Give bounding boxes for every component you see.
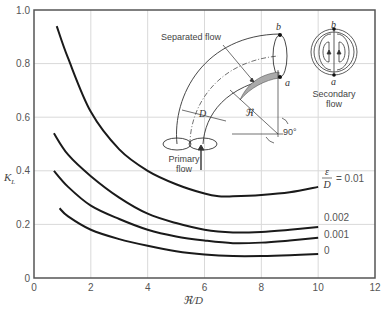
y-tick-label: 0.4 (16, 165, 30, 176)
series-label-0.01: = 0.01 (336, 173, 365, 184)
y-tick-label: 0.2 (16, 219, 30, 230)
secondary-flow-label-2: flow (326, 99, 343, 109)
y-tick-label: 0 (24, 273, 30, 284)
series-labels: ε D = 0.01 0.002 0.001 0 (322, 166, 365, 256)
x-tick-label: 8 (259, 282, 265, 293)
curve-0.001 (54, 171, 318, 243)
primary-flow-label-2: flow (176, 164, 193, 174)
x-tick-label: 0 (31, 282, 37, 293)
point-b-label: b (276, 21, 281, 32)
radius-symbol: ℜ (245, 107, 254, 118)
series-label-0.001: 0.001 (324, 229, 349, 240)
legend-D: D (322, 179, 331, 190)
y-tick-labels: 00.20.40.60.81.0 (16, 5, 30, 284)
x-axis-label: ℜ/D (183, 294, 203, 306)
pipe-bend-illustration (163, 33, 288, 170)
x-tick-labels: 024681012 (31, 282, 381, 293)
x-tick-label: 2 (88, 282, 94, 293)
legend-epsilon: ε (325, 166, 329, 177)
separated-flow-label: Separated flow (161, 32, 222, 42)
diameter-symbol: D (198, 108, 207, 119)
secondary-flow-label: Secondary (312, 89, 356, 99)
point-a-label: a (285, 77, 290, 88)
x-tick-label: 10 (313, 282, 325, 293)
series-label-0: 0 (324, 245, 330, 256)
curve-0 (60, 208, 319, 256)
x-tick-label: 4 (145, 282, 151, 293)
y-tick-label: 1.0 (16, 5, 30, 16)
secondary-point-b: b (331, 19, 336, 30)
angle-label: 90° (283, 127, 297, 137)
y-tick-label: 0.6 (16, 112, 30, 123)
chart: 024681012 00.20.40.60.81.0 KL ℜ/D ε D = … (0, 0, 383, 312)
curves (54, 26, 318, 256)
series-label-0.002: 0.002 (324, 212, 349, 223)
y-axis-label: KL (3, 171, 15, 186)
primary-flow-label: Primary (169, 154, 200, 164)
x-tick-label: 12 (369, 282, 381, 293)
secondary-point-a: a (331, 76, 336, 87)
y-tick-label: 0.8 (16, 58, 30, 69)
x-tick-label: 6 (202, 282, 208, 293)
